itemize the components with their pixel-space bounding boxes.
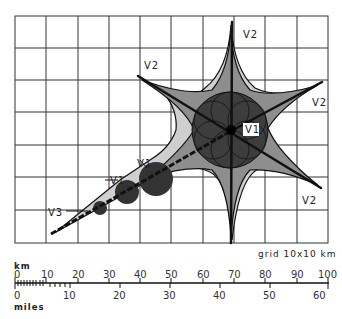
km-tick: 20	[72, 269, 85, 280]
v1-mid-label: V1	[137, 158, 152, 169]
mile-tick: 20	[113, 290, 126, 301]
v3-label: V3	[48, 207, 63, 218]
v1-small-label: V1	[110, 175, 125, 186]
km-tick: 100	[318, 269, 337, 280]
mile-tick: 50	[263, 290, 276, 301]
mile-ticks: 0 10 20 30 40 50 60	[14, 290, 326, 301]
v2-upper-left-label: V2	[144, 60, 159, 71]
miles-unit-label: miles	[14, 302, 45, 312]
grid-note: grid 10x10 km	[258, 249, 337, 259]
km-tick: 60	[197, 269, 210, 280]
km-tick: 0	[14, 269, 20, 280]
km-tick: 90	[291, 269, 304, 280]
scale-bar: km	[14, 261, 337, 312]
v2-lower-right-label: V2	[302, 195, 317, 206]
mile-tick: 0	[14, 290, 20, 301]
mile-tick: 40	[213, 290, 226, 301]
mile-tick: 10	[63, 290, 76, 301]
settlement-diagram: V1 V2 V2 V2 V2 V1 V1 V3 grid 10x10 km km	[0, 0, 342, 319]
center-node	[226, 125, 236, 135]
v2-top-label: V2	[243, 29, 258, 40]
km-tick: 30	[103, 269, 116, 280]
km-tick: 10	[41, 269, 54, 280]
km-tick: 80	[259, 269, 272, 280]
mile-tick: 60	[313, 290, 326, 301]
km-tick: 70	[228, 269, 241, 280]
v2-upper-right-label: V2	[312, 97, 327, 108]
v1-center-label: V1	[245, 124, 260, 135]
mile-tick: 30	[163, 290, 176, 301]
km-tick: 50	[165, 269, 178, 280]
km-ticks: 0 10 20 30 40 50 60 70 80 90 100	[14, 269, 337, 280]
km-tick: 40	[134, 269, 147, 280]
